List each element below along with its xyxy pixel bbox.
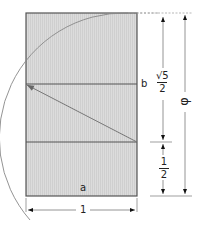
label-phi: φ	[176, 97, 191, 106]
label-b: b	[141, 79, 147, 89]
label-a: a	[80, 183, 86, 193]
label-sqrt5-over-2: √5 2	[156, 71, 169, 94]
label-width: 1	[80, 205, 86, 215]
label-one-half: 1 2	[159, 157, 169, 180]
golden-ratio-diagram	[0, 0, 204, 232]
golden-rectangle	[26, 13, 137, 196]
